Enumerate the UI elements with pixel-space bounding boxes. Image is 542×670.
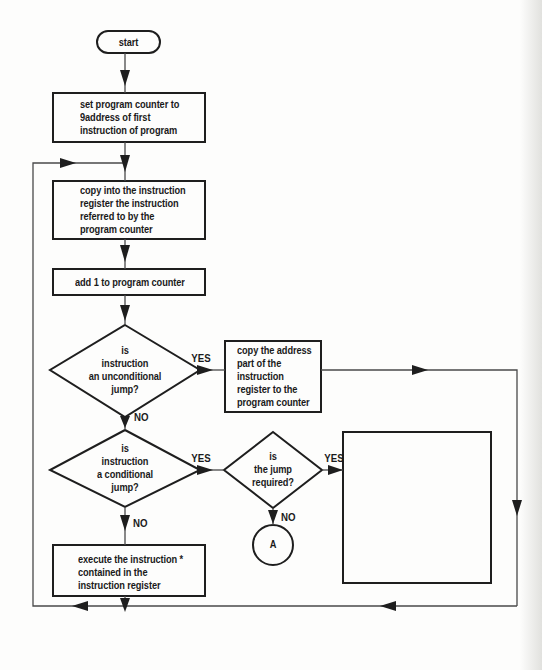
text-line: instruction register [78,579,201,592]
text-line: is [238,450,308,463]
set-pc-text: set program counter to 9address of first… [80,98,203,137]
text-line: jump? [72,383,178,396]
start-label: start [101,36,156,49]
conditional-text: is instruction a conditional jump? [72,442,178,494]
text-line: part of the [237,357,316,370]
arrow-down-icon [268,510,278,524]
required-yes-label: YES [324,452,343,464]
text-line: is [72,442,178,455]
arrow-down-icon [512,500,522,516]
copy-address-text: copy the address part of the instruction… [237,344,316,409]
text-line: instruction [237,370,316,383]
blank-box [343,432,491,583]
arrow-right-icon [60,158,76,168]
text-line: instruction of program [80,124,203,137]
text-line: instruction [72,455,178,468]
unconditional-text: is instruction an unconditional jump? [72,344,178,396]
text-line: contained in the [78,566,201,579]
jump-required-text: is the jump required? [238,450,308,489]
arrow-down-icon [120,70,130,86]
text-line: copy the address [237,344,316,357]
text-line: register the instruction [80,197,203,210]
conditional-no-label: NO [133,517,148,529]
arrow-left-icon [72,601,88,611]
arrow-right-icon [328,465,343,475]
text-line: 9address of first [80,111,203,124]
text-line: the jump [238,463,308,476]
text-line: register to the [237,383,316,396]
text-line: referred to by the [80,210,203,223]
arrow-right-icon [197,365,213,375]
text-line: required? [238,476,308,489]
text-line: jump? [72,481,178,494]
required-no-label: NO [281,511,296,523]
text-line: program counter [237,396,316,409]
arrow-down-icon [120,305,130,321]
text-line: an unconditional [72,370,178,383]
unconditional-no-label: NO [134,411,149,423]
text-line: a conditional [72,468,178,481]
connector-a-label: A [264,538,282,551]
arrow-right-icon [197,465,213,475]
fetch-text: copy into the instruction register the i… [80,184,203,236]
arrow-right-icon [412,365,428,375]
increment-text: add 1 to program counter [75,276,198,289]
text-line: execute the instruction * [78,553,201,566]
text-line: program counter [80,223,203,236]
arrow-down-icon [120,245,130,262]
text-line: is [72,344,178,357]
conditional-yes-label: YES [191,452,210,464]
arrow-down-icon [120,416,130,428]
arrow-down-icon [120,598,130,612]
arrow-down-icon [120,515,130,531]
text-line: copy into the instruction [80,184,203,197]
unconditional-yes-label: YES [191,352,210,364]
text-line: instruction [72,357,178,370]
arrow-left-icon [380,601,396,611]
execute-text: execute the instruction * contained in t… [78,553,201,592]
text-line: set program counter to [80,98,203,111]
